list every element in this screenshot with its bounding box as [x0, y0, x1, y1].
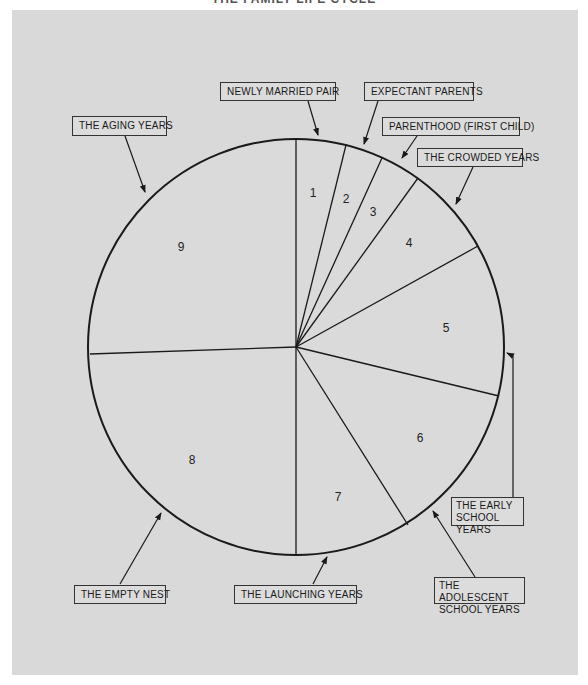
arrow-parenthood: [402, 136, 417, 158]
label-text: THE LAUNCHING YEARS: [241, 589, 350, 601]
label-text-line1: THE ADOLESCENT: [439, 580, 520, 604]
segment-number-1: 1: [310, 186, 317, 200]
label-crowded-years: THE CROWDED YEARS: [417, 148, 523, 167]
arrow-empty-nest: [120, 513, 161, 584]
segment-number-2: 2: [343, 192, 350, 206]
label-aging-years: THE AGING YEARS: [72, 116, 167, 136]
label-adolescent-school-years: THE ADOLESCENT SCHOOL YEARS: [434, 577, 525, 604]
segment-number-3: 3: [370, 205, 377, 219]
label-text: PARENTHOOD (FIRST CHILD): [389, 121, 513, 133]
arrow-newly-married: [308, 101, 318, 135]
segment-number-6: 6: [417, 431, 424, 445]
arrow-expectant: [364, 101, 378, 144]
arrow-aging: [125, 136, 145, 192]
segment-number-5: 5: [443, 321, 450, 335]
label-text: THE CROWDED YEARS: [424, 152, 516, 164]
label-newly-married-pair: NEWLY MARRIED PAIR: [220, 82, 336, 101]
segment-number-8: 8: [189, 453, 196, 467]
label-parenthood-first-child: PARENTHOOD (FIRST CHILD): [382, 117, 520, 136]
label-text: EXPECTANT PARENTS: [371, 86, 467, 98]
arrow-crowded: [456, 167, 473, 204]
segment-number-9: 9: [178, 240, 185, 254]
label-text: THE AGING YEARS: [79, 120, 160, 132]
label-empty-nest: THE EMPTY NEST: [74, 585, 166, 604]
label-text: NEWLY MARRIED PAIR: [227, 86, 329, 98]
label-early-school-years: THE EARLY SCHOOL YEARS: [451, 497, 524, 526]
label-text-line1: THE EARLY: [456, 500, 519, 512]
segment-number-7: 7: [335, 490, 342, 504]
label-text-line2: SCHOOL YEARS: [439, 604, 520, 616]
label-expectant-parents: EXPECTANT PARENTS: [364, 82, 474, 101]
label-launching-years: THE LAUNCHING YEARS: [234, 585, 357, 604]
label-text: THE EMPTY NEST: [81, 589, 159, 601]
segment-number-4: 4: [406, 236, 413, 250]
label-text-line2: SCHOOL YEARS: [456, 512, 519, 536]
arrow-launching: [313, 557, 327, 584]
arrow-early-school: [507, 353, 513, 497]
